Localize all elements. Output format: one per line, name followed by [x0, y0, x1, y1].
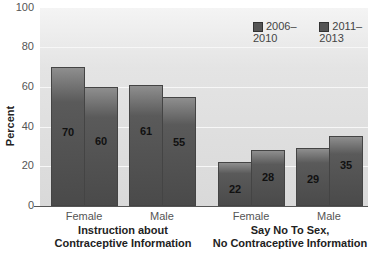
- y-tick-label: 60: [0, 80, 34, 92]
- group-label-instruction: Instruction about Contraceptive Informat…: [38, 224, 208, 250]
- bar-instruction-female-2006: 70: [51, 67, 85, 206]
- legend-item-2006: 2006–2010: [253, 20, 313, 44]
- y-tick-label: 20: [0, 159, 34, 171]
- value-label: 29: [297, 173, 329, 185]
- y-axis-tick: [34, 206, 40, 207]
- x-category-label: Male: [122, 210, 202, 222]
- bar-instruction-male-2006: 61: [129, 85, 163, 206]
- value-label: 35: [330, 159, 362, 171]
- x-category-label: Male: [289, 210, 369, 222]
- bar-sayno-female-2006: 22: [218, 162, 252, 206]
- value-label: 61: [130, 125, 162, 137]
- group-label-line: Say No To Sex,: [205, 224, 375, 237]
- legend-swatch-icon: [253, 22, 263, 32]
- value-label: 22: [219, 183, 251, 195]
- bar-sayno-male-2011: 35: [329, 136, 363, 206]
- group-label-sayno: Say No To Sex, No Contraceptive Informat…: [205, 224, 375, 250]
- y-tick-label: 100: [0, 1, 34, 13]
- x-category-label: Female: [44, 210, 124, 222]
- legend-swatch-icon: [319, 22, 329, 32]
- gridline-80: [40, 47, 368, 48]
- bar-sayno-male-2006: 29: [296, 148, 330, 206]
- group-label-line: Contraceptive Information: [38, 237, 208, 250]
- group-label-line: Instruction about: [38, 224, 208, 237]
- y-axis-label: Percent: [4, 106, 16, 146]
- x-axis-line: [40, 206, 368, 207]
- group-label-line: No Contraceptive Information: [205, 237, 375, 250]
- bar-sayno-female-2011: 28: [251, 150, 285, 206]
- y-tick-label: 0: [0, 199, 34, 211]
- value-label: 70: [52, 126, 84, 138]
- x-category-label: Female: [211, 210, 291, 222]
- value-label: 28: [252, 171, 284, 183]
- y-tick-label: 80: [0, 40, 34, 52]
- bar-instruction-male-2011: 55: [162, 97, 196, 206]
- bar-instruction-female-2011: 60: [84, 87, 118, 206]
- legend: 2006–2010 2011–2013: [253, 20, 379, 44]
- legend-item-2011: 2011–2013: [319, 20, 379, 44]
- value-label: 55: [163, 136, 195, 148]
- value-label: 60: [85, 135, 117, 147]
